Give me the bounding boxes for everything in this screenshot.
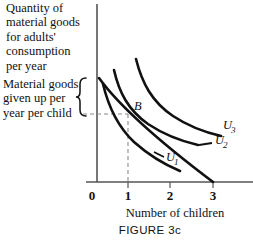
point-b-label: B (134, 99, 142, 113)
x-tick-label-2: 2 (167, 188, 174, 203)
x-tick-label-0: 0 (89, 188, 96, 203)
figure-container: Quantity of material goods for adults' c… (0, 0, 253, 241)
x-axis-label: Number of children (97, 206, 253, 221)
curve-label-u2-subscript: 2 (223, 140, 228, 150)
x-tick-label-1: 1 (125, 188, 132, 203)
u1-leader-line (154, 152, 164, 157)
material-goods-brace (76, 78, 86, 116)
curve-label-u3-subscript: 3 (230, 125, 236, 135)
u2-leader-line (199, 143, 212, 145)
x-tick-label-3: 3 (210, 188, 217, 203)
figure-caption: FIGURE 3c (60, 224, 240, 236)
curve-label-u1-subscript: 1 (174, 157, 179, 167)
indifference-curve-plot: B U 3 U 2 U 1 0 1 2 3 (0, 0, 253, 241)
